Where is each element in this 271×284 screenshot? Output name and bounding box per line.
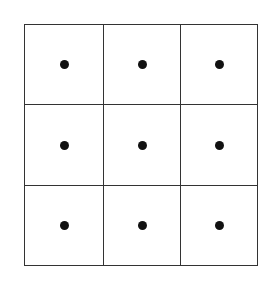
dot-grid (24, 24, 258, 266)
dot-icon (215, 221, 224, 230)
grid-cell-r1-c2 (104, 25, 181, 105)
grid-cell-r3-c2 (104, 186, 181, 265)
grid-cell-r2-c3 (181, 105, 257, 186)
dot-icon (138, 60, 147, 69)
dot-icon (60, 60, 69, 69)
grid-cell-r1-c3 (181, 25, 257, 105)
grid-cell-r2-c1 (25, 105, 104, 186)
dot-icon (60, 141, 69, 150)
dot-icon (138, 141, 147, 150)
dot-icon (138, 221, 147, 230)
grid-cell-r3-c1 (25, 186, 104, 265)
grid-cell-r2-c2 (104, 105, 181, 186)
dot-icon (215, 60, 224, 69)
grid-cell-r1-c1 (25, 25, 104, 105)
dot-icon (215, 141, 224, 150)
dot-icon (60, 221, 69, 230)
grid-cell-r3-c3 (181, 186, 257, 265)
